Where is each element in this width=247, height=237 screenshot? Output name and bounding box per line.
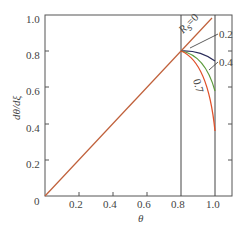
x-tick-0.4: 0.4: [103, 198, 117, 210]
y-axis: [45, 51, 232, 160]
annotation-0.4: 0.4: [219, 56, 233, 68]
series-r0: [45, 18, 212, 196]
x-tick-1.0: 1.0: [206, 198, 220, 210]
y-tick-0.6: 0.6: [26, 85, 40, 97]
y-tick-0.4: 0.4: [26, 122, 40, 134]
y-tick-1.0: 1.0: [26, 13, 40, 25]
origin-label: 0: [34, 195, 40, 207]
x-tick-0.8: 0.8: [171, 198, 185, 210]
x-axis: [79, 192, 147, 196]
y-tick-0.8: 0.8: [26, 49, 40, 61]
leader-0.4: [209, 62, 218, 70]
x-tick-0.2: 0.2: [69, 198, 83, 210]
y-tick-0.2: 0.2: [26, 158, 40, 170]
chart: 1.0 0.8 0.6 0.4 0.2 0 0.2 0.4 0.6 0.8 1.…: [0, 0, 247, 237]
plot-frame: [45, 15, 232, 196]
x-tick-0.6: 0.6: [137, 198, 151, 210]
y-axis-label: dθ/dξ: [10, 96, 23, 120]
annotation-0.7: 0.7: [191, 77, 206, 94]
annotation-0.2: 0.2: [219, 28, 233, 40]
x-axis-label: θ: [138, 212, 144, 224]
